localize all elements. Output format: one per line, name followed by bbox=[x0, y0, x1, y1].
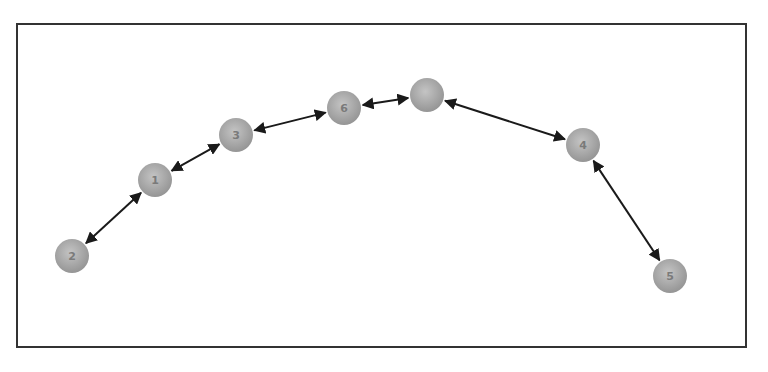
node-circle bbox=[410, 78, 444, 112]
node-n5: 5 bbox=[653, 259, 687, 293]
node-n3: 3 bbox=[219, 118, 253, 152]
node-label: 2 bbox=[68, 250, 76, 263]
edges-layer bbox=[86, 98, 659, 260]
diagram-canvas: 213645 bbox=[0, 0, 768, 372]
edge-arrow-n4-n5 bbox=[594, 161, 660, 260]
edge-arrow-n1-n3 bbox=[172, 144, 220, 171]
node-label: 6 bbox=[340, 102, 348, 115]
node-label: 1 bbox=[151, 174, 159, 187]
edge-arrow-n6-n7 bbox=[363, 98, 408, 105]
node-n4: 4 bbox=[566, 128, 600, 162]
nodes-layer: 213645 bbox=[55, 78, 687, 293]
node-n1: 1 bbox=[138, 163, 172, 197]
node-n2: 2 bbox=[55, 239, 89, 273]
node-n6: 6 bbox=[327, 91, 361, 125]
edge-arrow-n3-n6 bbox=[254, 113, 325, 131]
node-label: 5 bbox=[666, 270, 674, 283]
edge-arrow-n2-n1 bbox=[86, 193, 141, 243]
edge-arrow-n7-n4 bbox=[445, 101, 565, 139]
node-n7 bbox=[410, 78, 444, 112]
node-label: 4 bbox=[579, 139, 587, 152]
node-label: 3 bbox=[232, 129, 240, 142]
